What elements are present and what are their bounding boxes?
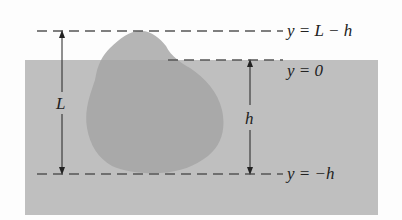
label-h: h xyxy=(245,110,254,127)
label-top-line: y = L − h xyxy=(287,22,352,39)
label-L: L xyxy=(56,95,65,112)
label-surface-line: y = 0 xyxy=(287,62,323,79)
label-bottom-line: y = −h xyxy=(287,165,335,182)
